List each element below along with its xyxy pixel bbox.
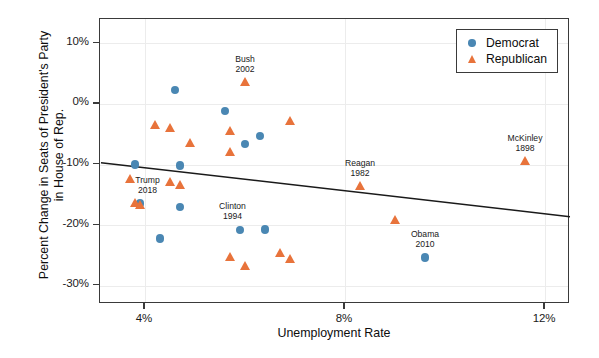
data-point-rep-15[interactable] xyxy=(240,261,250,270)
annotation-year: 2018 xyxy=(138,185,157,195)
legend: Democrat Republican xyxy=(456,29,558,73)
data-point-rep-4[interactable] xyxy=(285,116,295,125)
data-point-rep-6[interactable] xyxy=(225,147,235,156)
data-point-rep-10[interactable] xyxy=(175,180,185,189)
data-point-rep-1[interactable] xyxy=(150,120,160,129)
annotation-name: Clinton xyxy=(219,201,246,211)
annotation-year: 1994 xyxy=(223,211,242,221)
annotation-name: Bush xyxy=(235,54,255,64)
data-point-rep-13[interactable] xyxy=(355,181,365,190)
y-axis-title: Percent Change in Seats of President's P… xyxy=(37,25,67,285)
annotation-year: 1898 xyxy=(515,143,534,153)
annotation-year: 2010 xyxy=(415,239,434,249)
data-point-rep-2[interactable] xyxy=(165,123,175,132)
y-tick-label-1: 0% xyxy=(43,95,89,107)
data-point-rep-7[interactable] xyxy=(125,174,135,183)
y-tick-label-0: 10% xyxy=(43,35,89,47)
annotation-name: Trump xyxy=(135,175,160,185)
y-tick-label-4: -30% xyxy=(43,277,89,289)
data-point-rep-18[interactable] xyxy=(390,215,400,224)
annotation-bush: Bush2002 xyxy=(235,54,255,74)
x-tick-label-1: 8% xyxy=(320,312,368,324)
data-point-rep-16[interactable] xyxy=(275,248,285,257)
annotation-name: Obama xyxy=(411,229,439,239)
x-tick-label-0: 4% xyxy=(120,312,168,324)
data-point-rep-8[interactable] xyxy=(165,177,175,186)
annotation-reagan: Reagan1982 xyxy=(345,158,375,178)
data-point-dem-9[interactable] xyxy=(261,225,270,234)
data-point-dem-11[interactable] xyxy=(421,253,430,262)
y-tick-label-2: -10% xyxy=(43,156,89,168)
democrat-circle-icon xyxy=(464,39,480,46)
annotation-clinton: Clinton1994 xyxy=(219,201,246,221)
annotation-year: 1982 xyxy=(350,168,369,178)
annotation-name: McKinley xyxy=(508,133,543,143)
chart-canvas: Percent Change in Seats of President's P… xyxy=(0,0,599,358)
plot-area: Bush2002McKinley1898Reagan1982Trump2018C… xyxy=(99,18,569,303)
annotation-obama: Obama2010 xyxy=(411,229,439,249)
data-point-rep-0[interactable] xyxy=(240,77,250,86)
x-tick-label-2: 12% xyxy=(520,312,568,324)
data-point-rep-5[interactable] xyxy=(185,138,195,147)
data-point-rep-14[interactable] xyxy=(225,252,235,261)
data-point-rep-3[interactable] xyxy=(225,126,235,135)
republican-triangle-icon xyxy=(464,55,480,63)
data-point-rep-17[interactable] xyxy=(285,254,295,263)
annotation-trump: Trump2018 xyxy=(135,175,160,195)
legend-item-democrat[interactable]: Democrat xyxy=(464,35,547,51)
annotation-year: 2002 xyxy=(235,64,254,74)
legend-label-republican: Republican xyxy=(486,52,547,66)
x-axis-title: Unemployment Rate xyxy=(99,326,569,340)
annotation-mckinley: McKinley1898 xyxy=(508,133,543,153)
data-point-dem-5[interactable] xyxy=(131,160,140,169)
data-point-rep-9[interactable] xyxy=(520,156,530,165)
data-point-rep-12[interactable] xyxy=(135,200,145,209)
legend-label-democrat: Democrat xyxy=(486,36,539,50)
annotation-name: Reagan xyxy=(345,158,375,168)
data-point-dem-10[interactable] xyxy=(156,234,165,243)
legend-item-republican[interactable]: Republican xyxy=(464,51,547,67)
y-tick-label-3: -20% xyxy=(43,217,89,229)
